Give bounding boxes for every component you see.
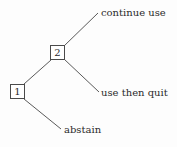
decision-node-2-label: 2	[54, 48, 60, 58]
edge-node1-abstain	[24, 99, 61, 129]
edge-node1-node2	[24, 60, 51, 84]
edge-node2-use-then-quit	[64, 59, 99, 92]
terminal-label-continue-use: continue use	[101, 8, 166, 18]
decision-node-1: 1	[10, 84, 25, 99]
terminal-label-abstain: abstain	[64, 125, 101, 135]
decision-node-2: 2	[50, 45, 65, 60]
edge-node2-continue-use	[64, 13, 98, 46]
decision-node-1-label: 1	[14, 87, 20, 97]
terminal-label-use-then-quit: use then quit	[101, 88, 168, 98]
game-tree-diagram: 1 2 continue use use then quit abstain	[0, 0, 177, 147]
